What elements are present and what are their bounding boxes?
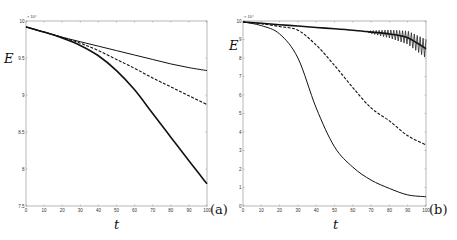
x-tick-label: 70: [369, 208, 375, 213]
panel-label-b: (b): [429, 202, 447, 217]
x-tick-label: 0: [242, 208, 245, 213]
y-tick-label: 10: [236, 19, 242, 24]
y-tick-label: 9: [239, 37, 242, 42]
ticks-b: 0102030405060708090100012345678910: [236, 19, 430, 214]
y-tick-label: 8: [239, 56, 242, 61]
y-tick-label: 3: [239, 148, 242, 153]
y-axis-label-a: E: [3, 51, 14, 66]
x-tick-label: 20: [277, 208, 283, 213]
series-line-dash-dot: [26, 27, 207, 71]
panel-label-a: (a): [210, 202, 228, 217]
x-axis-label-b: t: [333, 217, 339, 232]
x-tick-label: 10: [42, 208, 48, 213]
x-tick-label: 30: [295, 208, 301, 213]
y-tick-label: 6: [239, 93, 242, 98]
y-multiplier-a: × 10⁴: [27, 14, 37, 19]
x-tick-label: 70: [150, 208, 156, 213]
ticks-a: 01020304050607080901007.588.599.510: [18, 19, 211, 214]
x-tick-label: 90: [405, 208, 411, 213]
y-tick-label: 2: [239, 167, 242, 172]
y-tick-label: 9: [22, 93, 25, 98]
x-tick-label: 40: [96, 208, 102, 213]
figure: 01020304050607080901007.588.599.510 × 10…: [0, 0, 457, 240]
x-tick-label: 50: [114, 208, 120, 213]
series-line-solid: [243, 22, 426, 49]
panel-a: 01020304050607080901007.588.599.510 × 10…: [3, 14, 228, 232]
x-tick-label: 80: [168, 208, 174, 213]
x-tick-label: 80: [387, 208, 393, 213]
y-tick-label: 8: [22, 167, 25, 172]
x-tick-label: 60: [350, 208, 356, 213]
y-multiplier-b: × 10⁴: [244, 14, 254, 19]
series-a: [26, 27, 207, 184]
x-tick-label: 20: [60, 208, 66, 213]
y-tick-label: 10: [19, 19, 25, 24]
plot-area-b: [243, 21, 426, 206]
x-axis-label-a: t: [114, 217, 120, 232]
y-tick-label: 5: [239, 111, 242, 116]
x-tick-label: 40: [314, 208, 320, 213]
y-tick-label: 7.5: [18, 204, 25, 209]
y-tick-label: 1: [239, 185, 242, 190]
plot-area-a: [26, 21, 207, 206]
x-tick-label: 50: [332, 208, 338, 213]
panel-b: 0102030405060708090100012345678910 × 10⁴…: [228, 14, 447, 232]
y-tick-label: 7: [239, 74, 242, 79]
x-tick-label: 30: [78, 208, 84, 213]
y-axis-label-b: E: [228, 38, 239, 53]
series-line-dash-dot: [243, 22, 426, 197]
y-tick-label: 8.5: [18, 130, 25, 135]
x-tick-label: 60: [132, 208, 138, 213]
y-tick-label: 4: [239, 130, 242, 135]
x-tick-label: 10: [259, 208, 265, 213]
y-tick-label: 9.5: [18, 56, 25, 61]
x-tick-label: 90: [186, 208, 192, 213]
x-tick-label: 0: [25, 208, 28, 213]
series-b: [243, 22, 426, 197]
